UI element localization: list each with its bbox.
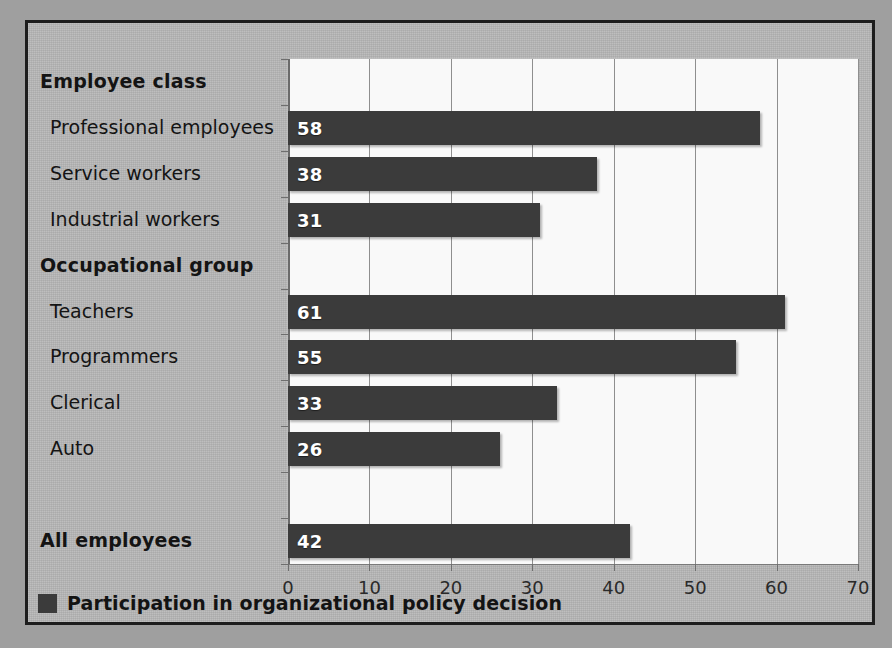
row-boundary-tick [281,334,288,335]
bar-teachers[interactable]: 61 [288,295,785,329]
bar-value-label: 61 [297,301,323,322]
bar-value-label: 26 [297,439,323,460]
chart-legend: Participation in organizational policy d… [38,592,562,614]
tick-label-40: 40 [602,577,625,598]
bar-clerical[interactable]: 33 [288,386,557,420]
bar-all-employees[interactable]: 42 [288,524,630,558]
bar-value-label: 42 [297,531,323,552]
row-boundary-tick [281,243,288,244]
category-label-programmers: Programmers [50,347,305,366]
row-boundary-tick [281,289,288,290]
group-header-all-employees: All employees [40,531,295,550]
group-header-employee-class: Employee class [40,72,295,91]
chart-frame: Employee classProfessional employeesServ… [25,20,875,625]
row-boundary-tick [281,472,288,473]
tick-30 [532,564,533,571]
category-label-clerical: Clerical [50,393,305,412]
bar-service-workers[interactable]: 38 [288,157,597,191]
tick-label-70: 70 [847,577,870,598]
bar-value-label: 55 [297,347,323,368]
plot-area: 5838316155332642 010203040506070 [288,59,858,564]
bar-value-label: 33 [297,393,323,414]
tick-label-60: 60 [765,577,788,598]
row-boundary-tick [281,197,288,198]
row-boundary-tick [281,426,288,427]
bar-industrial-workers[interactable]: 31 [288,203,540,237]
tick-40 [614,564,615,571]
tick-50 [695,564,696,571]
category-label-teachers: Teachers [50,302,305,321]
tick-label-50: 50 [684,577,707,598]
row-boundary-tick [281,151,288,152]
bar-professional-employees[interactable]: 58 [288,111,760,145]
bar-value-label: 38 [297,163,323,184]
tick-60 [777,564,778,571]
row-boundary-tick [281,380,288,381]
tick-70 [858,564,859,571]
bar-auto[interactable]: 26 [288,432,500,466]
row-boundary-tick [281,105,288,106]
tick-20 [451,564,452,571]
group-header-occupational-group: Occupational group [40,256,295,275]
gridline-70 [858,59,859,564]
category-label-auto: Auto [50,439,305,458]
row-boundary-tick [281,518,288,519]
legend-swatch-participation [38,594,57,613]
category-label-service-workers: Service workers [50,164,305,183]
bar-programmers[interactable]: 55 [288,340,736,374]
category-label-industrial-workers: Industrial workers [50,210,305,229]
legend-label-participation: Participation in organizational policy d… [67,592,562,614]
category-axis-line [288,564,858,565]
row-boundary-tick [281,564,288,565]
category-label-professional-employees: Professional employees [50,118,305,137]
tick-0 [288,564,289,571]
row-boundary-tick [281,59,288,60]
tick-10 [369,564,370,571]
bar-value-label: 31 [297,209,323,230]
bar-value-label: 58 [297,117,323,138]
